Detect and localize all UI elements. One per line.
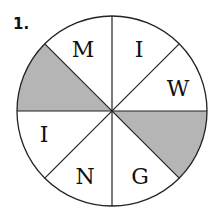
sector-letter: G [131, 164, 149, 189]
sector-letter: W [167, 76, 190, 101]
sector-letter: I [40, 122, 49, 147]
sector-letter: I [135, 37, 144, 62]
shaded-sector-left-upper [17, 44, 112, 111]
letter-wheel: M I W G N I [0, 0, 220, 209]
shaded-sector-right-lower [112, 111, 207, 178]
sector-letter: N [75, 164, 94, 189]
sector-letter: M [72, 37, 95, 62]
